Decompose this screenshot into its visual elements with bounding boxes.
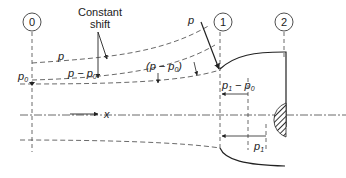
svg-text:1: 1 xyxy=(220,16,226,28)
svg-text:2: 2 xyxy=(281,16,287,28)
p1-label: p1 xyxy=(253,140,264,153)
p0-baseline xyxy=(20,70,220,84)
station-1-marker: 1 xyxy=(214,13,232,31)
x-axis-label: x xyxy=(103,108,110,120)
pressure-diagram: 0 1 2 Constant shift p p − p0 (p − p0) p… xyxy=(0,0,346,178)
shift-arrow-b xyxy=(194,62,197,75)
stagnation-body xyxy=(274,103,286,137)
lower-streamline xyxy=(20,140,220,148)
p-minus-p0-label: p − p0 xyxy=(67,67,97,80)
constant-shift-arrow-2 xyxy=(98,32,107,59)
nozzle-lower-wall xyxy=(220,148,285,166)
station-0-marker: 0 xyxy=(23,13,41,31)
svg-text:0: 0 xyxy=(29,16,35,28)
p-top-label: p xyxy=(187,14,194,26)
station-2-marker: 2 xyxy=(275,13,293,31)
constant-shift-label-1: Constant xyxy=(78,6,122,18)
p1-minus-p0-label: p1 − p0 xyxy=(221,79,255,92)
p-label: p xyxy=(57,50,64,62)
p0-label: p0 xyxy=(17,70,28,83)
constant-shift-label-2: shift xyxy=(90,18,110,30)
p-pointer xyxy=(201,22,219,69)
